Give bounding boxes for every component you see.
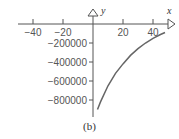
- data-curve: [98, 33, 166, 110]
- chart-plot: −40−202040 −200000−400000−600000−800000 …: [0, 0, 179, 139]
- x-ticks: −40−202040: [25, 19, 159, 38]
- y-axis-label: y: [100, 5, 106, 16]
- x-tick-label: 20: [117, 27, 129, 38]
- y-tick-label: −400000: [48, 57, 88, 68]
- y-tick-label: −200000: [48, 38, 88, 49]
- y-tick-label: −600000: [48, 76, 88, 87]
- figure-caption: (b): [0, 120, 179, 132]
- x-tick-label: −20: [55, 27, 72, 38]
- y-axis-arrow-icon: [88, 9, 98, 16]
- y-tick-label: −800000: [48, 95, 88, 106]
- x-axis-label: x: [166, 5, 172, 16]
- x-axis-arrow-icon: [168, 19, 175, 29]
- y-ticks: −200000−400000−600000−800000: [48, 38, 93, 106]
- x-tick-label: −40: [25, 27, 42, 38]
